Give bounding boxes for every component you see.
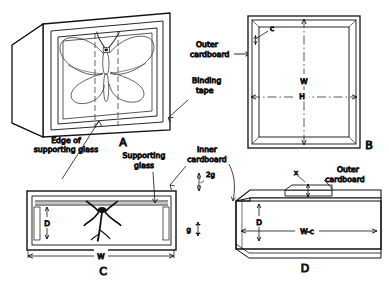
butterfly-head-dot (105, 49, 108, 52)
section-end-block-left (34, 207, 40, 240)
section-end-block-right (163, 207, 169, 240)
label-inner-cardboard-line2: cardboard (187, 155, 227, 164)
panel-b-frame-elevation: c W H B (248, 16, 373, 152)
label-supporting-glass-line1: Supporting (123, 151, 166, 160)
technical-diagram-svg: A Edge of supporting glass Outer cardboa… (0, 0, 389, 282)
dim-label-x: x (294, 169, 298, 177)
dim-label-g: g (187, 226, 191, 234)
label-outer-cardboard-d-line2: cardboard (325, 175, 365, 184)
dim-label-d-panel-d: D (256, 218, 262, 227)
dim-label-d-panel-c: D (44, 219, 50, 228)
panel-a-letter: A (119, 136, 127, 149)
dim-label-h-panel-b: H (299, 92, 305, 101)
dim-label-w-panel-c: W (97, 252, 105, 261)
label-supporting-glass-line2: glass (134, 161, 154, 170)
label-binding-tape-line2: tape (196, 86, 214, 95)
panel-b-letter: B (365, 139, 373, 152)
dim-label-c: c (270, 24, 274, 33)
specimen-thorax-side (98, 207, 106, 213)
label-outer-cardboard-line1: Outer (196, 40, 219, 49)
label-outer-cardboard-line2: cardboard (190, 50, 230, 59)
diagram-canvas: A Edge of supporting glass Outer cardboa… (0, 0, 389, 282)
label-inner-cardboard-line1: Inner (197, 145, 218, 154)
label-binding-tape-line1: Binding (192, 76, 221, 85)
panel-d-letter: D (301, 262, 309, 275)
dim-label-w-minus-c: W-c (300, 227, 314, 236)
dim-label-2g: 2g (206, 171, 215, 179)
label-edge-of-supporting-glass-line1: Edge of (51, 136, 81, 145)
panel-c-letter: C (99, 265, 107, 278)
label-edge-of-supporting-glass-line2: supporting glass (34, 145, 98, 154)
case-front-face (43, 13, 170, 137)
dim-label-w-panel-b: W (300, 77, 308, 86)
label-outer-cardboard-d-line1: Outer (337, 165, 360, 174)
